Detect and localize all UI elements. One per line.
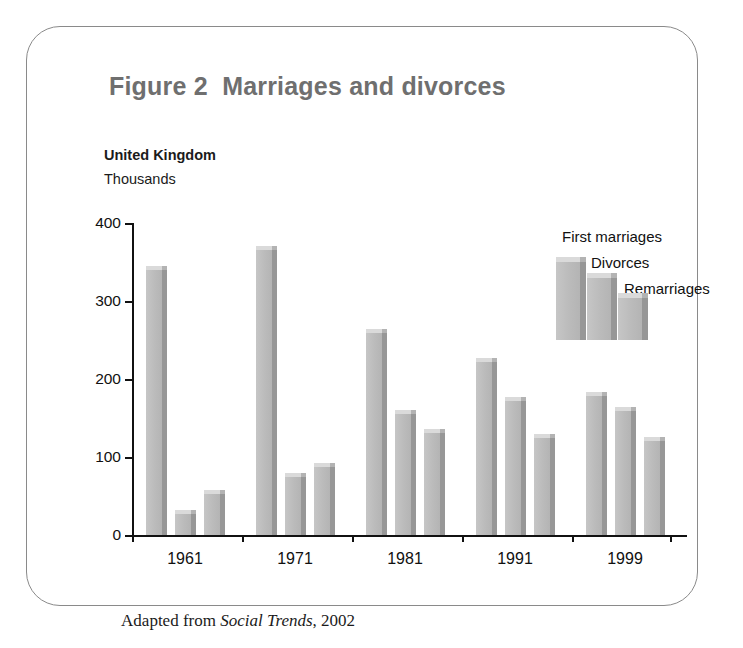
bar-1961-divorces [175,514,196,535]
legend-swatches [556,246,676,340]
bar-1981-remarriages [424,433,445,535]
bar-1999-remarriages [644,441,665,535]
y-tick-label: 300 [95,292,121,310]
axis-units-label: Thousands [104,171,176,187]
x-group-label-1971: 1971 [277,550,313,568]
bar-1981-first-marriages [366,333,387,535]
bar-1971-first-marriages [256,250,277,535]
bar-1991-first-marriages [476,362,497,535]
y-tick-label: 400 [95,214,121,232]
y-tick-label: 0 [112,526,121,544]
bar-1999-divorces [615,411,636,535]
bar-1961-remarriages [204,494,225,535]
bar-1991-remarriages [534,438,555,536]
legend-swatch-remarriages [618,298,648,340]
bar-1971-divorces [285,477,306,536]
x-group-label-1961: 1961 [167,550,203,568]
y-tick-mark [125,535,132,537]
source-note: Adapted from Social Trends, 2002 [105,591,355,648]
bar-1961-first-marriages [146,270,167,535]
x-tick-mark [670,535,672,542]
legend-swatch-first-marriages [556,262,586,340]
bar-1999-first-marriages [586,396,607,535]
x-tick-mark [132,535,134,542]
region-label: United Kingdom [104,147,216,163]
legend-swatch-divorces [587,278,617,340]
x-axis-line [131,535,687,537]
figure-title: Figure 2 Marriages and divorces [109,72,506,101]
y-tick-mark [125,457,132,459]
x-tick-mark [242,535,244,542]
y-axis-line [132,223,134,535]
x-tick-mark [352,535,354,542]
y-tick-mark [125,379,132,381]
legend-label-first-marriages: First marriages [562,228,662,245]
y-tick-label: 100 [95,448,121,466]
x-group-label-1999: 1999 [607,550,643,568]
bar-1971-remarriages [314,467,335,535]
y-tick-mark [125,223,132,225]
y-tick-mark [125,301,132,303]
x-group-label-1991: 1991 [497,550,533,568]
x-tick-mark [462,535,464,542]
source-note-title: Social Trends [220,611,312,630]
source-note-suffix: , 2002 [313,611,356,630]
x-group-label-1981: 1981 [387,550,423,568]
figure-frame: Figure 2 Marriages and divorces United K… [26,26,698,606]
bar-1991-divorces [505,401,526,535]
source-note-prefix: Adapted from [121,611,220,630]
x-tick-mark [572,535,574,542]
y-tick-label: 200 [95,370,121,388]
bar-1981-divorces [395,414,416,535]
chart-legend: First marriages Divorces Remarriages [556,228,736,340]
